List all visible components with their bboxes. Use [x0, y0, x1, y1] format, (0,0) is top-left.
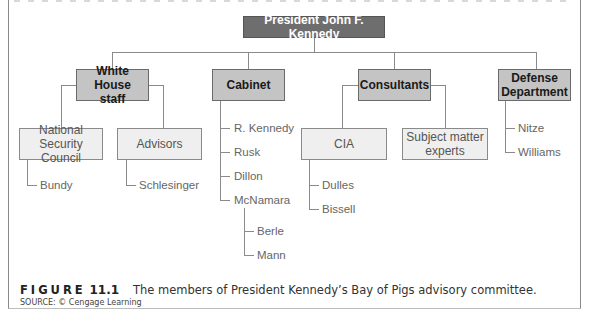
cropped-text-strip	[14, 0, 574, 3]
node-subject-matter-experts: Subject matterexperts	[402, 128, 488, 160]
connector	[27, 160, 28, 185]
connector	[163, 85, 164, 128]
member-mcnamara: McNamara	[234, 193, 290, 207]
caption-text: The members of President Kennedy’s Bay o…	[133, 283, 537, 297]
connector	[220, 176, 230, 177]
node-label: National Security	[20, 123, 102, 151]
node-label: President John F. Kennedy	[244, 13, 384, 41]
node-label: Council	[20, 151, 102, 165]
node-label: White House	[77, 64, 148, 92]
node-advisors: Advisors	[117, 128, 202, 160]
member-rusk: Rusk	[234, 145, 260, 159]
node-label: CIA	[334, 137, 354, 151]
figure-number: 11.1	[89, 283, 119, 297]
node-label: Subject matter	[406, 130, 483, 144]
member-berle: Berle	[257, 224, 284, 238]
node-white-house-staff: White Housestaff	[76, 69, 149, 101]
node-cia: CIA	[301, 128, 387, 160]
connector	[248, 52, 249, 69]
connector	[342, 85, 343, 128]
node-label: Department	[501, 85, 568, 99]
member-dulles: Dulles	[322, 178, 354, 192]
connector	[394, 52, 395, 69]
member-mann: Mann	[257, 248, 286, 262]
node-consultants: Consultants	[358, 69, 431, 101]
connector	[309, 209, 319, 210]
connector	[61, 85, 62, 128]
connector	[505, 152, 515, 153]
node-defense-department: DefenseDepartment	[498, 69, 571, 101]
member-nitze: Nitze	[518, 121, 544, 135]
node-label: Advisors	[136, 137, 182, 151]
connector	[126, 185, 136, 186]
connector	[309, 185, 319, 186]
connector	[27, 185, 37, 186]
connector	[112, 52, 537, 53]
member-bissell: Bissell	[322, 202, 355, 216]
connector	[126, 160, 127, 185]
node-cabinet: Cabinet	[212, 69, 285, 101]
member-williams: Williams	[518, 145, 561, 159]
figure-source: SOURCE: © Cengage Learning	[20, 298, 142, 307]
node-president: President John F. Kennedy	[243, 16, 385, 38]
node-label: Consultants	[360, 78, 429, 92]
connector	[220, 200, 230, 201]
node-label: Defense	[501, 71, 568, 85]
connector	[220, 128, 230, 129]
connector	[505, 101, 506, 152]
node-national-security-council: National SecurityCouncil	[19, 128, 103, 160]
connector	[220, 152, 230, 153]
member-schlesinger: Schlesinger	[139, 178, 199, 192]
node-label: staff	[77, 92, 148, 106]
connector	[61, 85, 76, 86]
connector	[536, 52, 537, 69]
node-label: experts	[406, 144, 483, 158]
node-label: Cabinet	[226, 78, 270, 92]
connector	[431, 85, 445, 86]
connector	[220, 101, 221, 200]
connector	[149, 85, 163, 86]
connector	[244, 255, 254, 256]
figure-label: FIGURE	[20, 283, 86, 297]
figure-caption: FIGURE 11.1 The members of President Ken…	[20, 283, 537, 297]
connector	[342, 85, 358, 86]
connector	[505, 128, 515, 129]
member-r-kennedy: R. Kennedy	[234, 121, 294, 135]
connector	[314, 38, 315, 53]
member-bundy: Bundy	[40, 178, 73, 192]
connector	[445, 85, 446, 128]
connector	[244, 231, 254, 232]
member-dillon: Dillon	[234, 169, 263, 183]
